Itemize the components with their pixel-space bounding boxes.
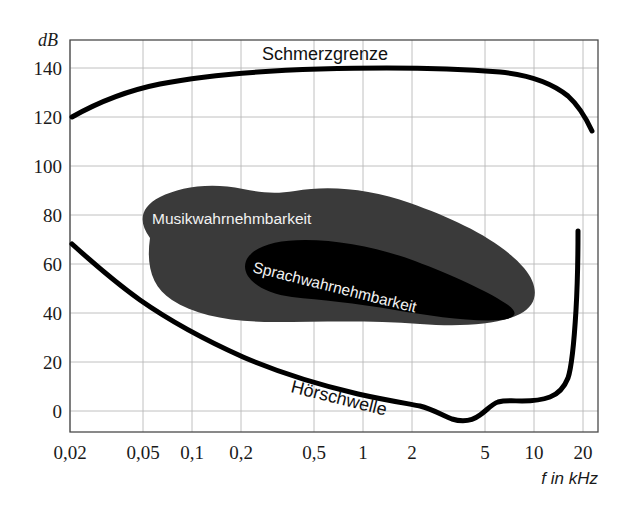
curve-label-hoerschwelle: Hörschwelle: [289, 376, 389, 419]
x-tick-0.2: 0,2: [229, 442, 253, 463]
x-tick-5: 5: [480, 442, 490, 463]
x-tick-labels: 0,02 0,05 0,1 0,2 0,5 1 2 5 10 20: [53, 442, 592, 463]
y-tick-labels: 140 120 100 80 60 40 20 0: [34, 58, 63, 422]
y-tick-0: 0: [53, 401, 63, 422]
x-tick-0.05: 0,05: [126, 442, 159, 463]
x-tick-0.5: 0,5: [302, 442, 326, 463]
x-tick-0.1: 0,1: [180, 442, 204, 463]
y-tick-40: 40: [43, 303, 62, 324]
y-tick-20: 20: [43, 352, 62, 373]
y-tick-140: 140: [34, 58, 63, 79]
x-tick-10: 10: [525, 442, 544, 463]
curve-schmerzgrenze: [72, 68, 592, 131]
x-tick-2: 2: [407, 442, 417, 463]
y-tick-120: 120: [34, 107, 63, 128]
x-tick-1: 1: [358, 442, 368, 463]
x-tick-20: 20: [574, 442, 593, 463]
x-tick-0.02: 0,02: [53, 442, 86, 463]
hearing-field-figure: Musikwahrnehmbarkeit Sprachwahrnehmbarke…: [0, 0, 641, 506]
region-label-musikwahrnehmbarkeit: Musikwahrnehmbarkeit: [152, 210, 312, 227]
y-tick-60: 60: [43, 254, 62, 275]
x-axis-title: f in kHz: [541, 469, 598, 488]
y-tick-80: 80: [43, 205, 62, 226]
curve-label-schmerzgrenze: Schmerzgrenze: [262, 44, 388, 64]
y-axis-unit-label: dB: [38, 30, 58, 50]
chart-svg: Musikwahrnehmbarkeit Sprachwahrnehmbarke…: [0, 0, 641, 506]
y-tick-100: 100: [34, 156, 63, 177]
